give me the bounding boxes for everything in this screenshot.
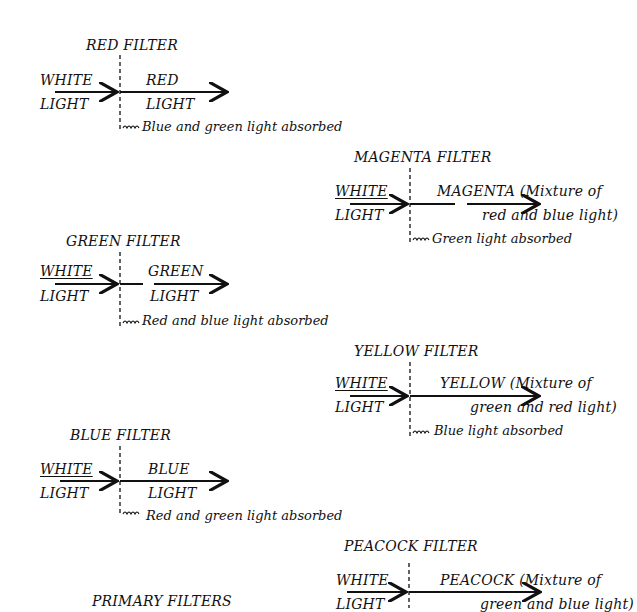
magenta-input-bottom: LIGHT — [335, 207, 384, 223]
green-input-bottom: LIGHT — [40, 288, 89, 304]
blue-input-top: WHITE — [40, 461, 93, 477]
magenta-output-top: MAGENTA (Mixture of — [437, 183, 602, 199]
green-output-top: GREEN — [148, 263, 203, 279]
blue-filter-title: BLUE FILTER — [70, 427, 171, 443]
peacock-output-bottom: green and blue light) — [480, 596, 634, 612]
peacock-input-bottom: LIGHT — [336, 596, 385, 612]
magenta-output-bottom: red and blue light) — [482, 207, 618, 223]
peacock-input-top: WHITE — [336, 572, 389, 588]
magenta-input-top: WHITE — [335, 183, 388, 199]
green-output-bottom: LIGHT — [150, 288, 199, 304]
green-input-top: WHITE — [40, 263, 93, 279]
peacock-filter-title: PEACOCK FILTER — [344, 538, 478, 554]
peacock-output-top: PEACOCK (Mixture of — [440, 572, 601, 588]
red-input-top: WHITE — [40, 72, 93, 88]
blue-filter-lines — [60, 446, 225, 515]
yellow-output-top: YELLOW (Mixture of — [440, 375, 592, 391]
red-output-bottom: LIGHT — [146, 96, 195, 112]
primary-filters-caption: PRIMARY FILTERS — [92, 593, 232, 609]
yellow-absorbed: Blue light absorbed — [434, 423, 563, 438]
blue-output-top: BLUE — [148, 461, 190, 477]
blue-output-bottom: LIGHT — [148, 485, 197, 501]
yellow-filter-title: YELLOW FILTER — [354, 343, 478, 359]
red-absorbed: Blue and green light absorbed — [142, 119, 342, 134]
blue-input-bottom: LIGHT — [40, 485, 89, 501]
red-filter-title: RED FILTER — [86, 37, 178, 53]
green-filter-title: GREEN FILTER — [66, 233, 181, 249]
yellow-input-bottom: LIGHT — [335, 399, 384, 415]
magenta-filter-title: MAGENTA FILTER — [354, 149, 492, 165]
red-output-top: RED — [146, 72, 179, 88]
magenta-absorbed: Green light absorbed — [432, 231, 572, 246]
blue-absorbed: Red and green light absorbed — [146, 508, 342, 523]
yellow-output-bottom: green and red light) — [470, 399, 617, 415]
red-input-bottom: LIGHT — [40, 96, 89, 112]
green-absorbed: Red and blue light absorbed — [142, 313, 329, 328]
yellow-input-top: WHITE — [335, 375, 388, 391]
